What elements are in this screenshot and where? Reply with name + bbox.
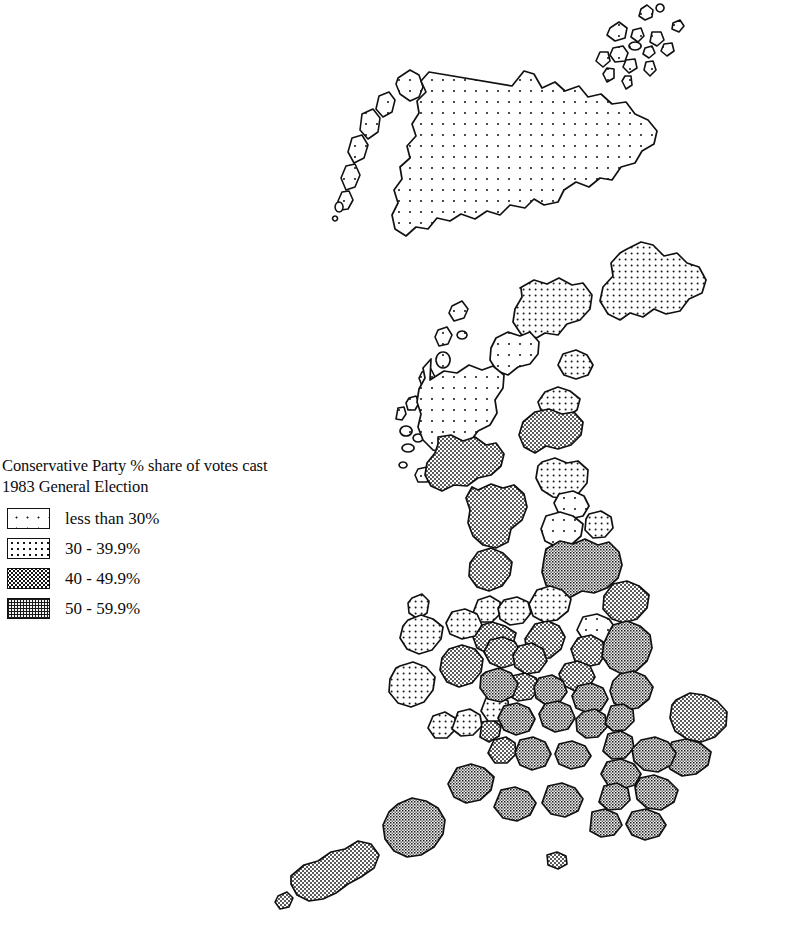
region-buckinghamshire <box>576 709 607 738</box>
region-staffordshire <box>513 643 547 674</box>
region-essex <box>632 737 676 772</box>
map-regions <box>275 4 727 909</box>
region-hereford-worcester <box>480 668 518 702</box>
region-highland <box>392 71 657 236</box>
legend-item-class-3: 40 - 49.9% <box>2 563 302 593</box>
region-clwyd <box>446 609 482 639</box>
legend-swatch-sparse-dots-icon <box>7 508 50 529</box>
legend-item-class-4: 50 - 59.9% <box>2 593 302 623</box>
region-berkshire <box>555 741 591 769</box>
region-cleveland <box>585 511 613 538</box>
legend-item-class-1: less than 30% <box>2 503 302 533</box>
legend-title-line-2: 1983 General Election <box>2 476 302 497</box>
region-somerset <box>448 764 494 803</box>
region-lancashire <box>469 548 512 591</box>
region-cumbria <box>466 484 527 548</box>
region-oxfordshire <box>539 701 575 732</box>
legend-swatch-dense-dots-icon <box>7 568 50 589</box>
region-powys <box>440 645 483 687</box>
region-kent <box>635 775 678 810</box>
legend-label-class-1: less than 30% <box>65 508 159 529</box>
region-shetland-orkney <box>596 4 684 89</box>
region-cornwall <box>291 841 379 901</box>
region-dyfed <box>389 662 435 707</box>
region-mid-glamorgan <box>452 709 482 736</box>
figure-page: Conservative Party % share of votes cast… <box>0 0 805 937</box>
region-isle-of-wight <box>547 852 567 869</box>
region-gloucestershire <box>498 703 535 735</box>
legend-label-class-4: 50 - 59.9% <box>65 598 140 619</box>
region-surrey <box>599 783 630 810</box>
region-fife <box>558 350 593 379</box>
legend-swatch-medium-dots-icon <box>7 538 50 559</box>
map-legend: Conservative Party % share of votes cast… <box>2 455 302 623</box>
region-west-glamorgan <box>428 712 456 738</box>
region-cambridgeshire <box>610 671 653 710</box>
region-grampian <box>600 242 706 320</box>
region-wiltshire <box>515 737 551 770</box>
legend-items: less than 30% 30 - 39.9% 40 - 49.9% 50 -… <box>2 503 302 623</box>
legend-swatch-crosshatch-icon <box>7 598 50 619</box>
region-northamptonshire <box>572 683 608 713</box>
region-tayside <box>513 278 592 340</box>
region-greater-manchester <box>498 597 531 625</box>
legend-item-class-2: 30 - 39.9% <box>2 533 302 563</box>
region-hampshire <box>542 783 583 817</box>
region-humberside <box>603 581 649 623</box>
legend-label-class-2: 30 - 39.9% <box>65 538 140 559</box>
region-borders <box>519 409 583 453</box>
region-norfolk <box>670 693 727 742</box>
legend-title-line-1: Conservative Party % share of votes cast <box>2 455 302 476</box>
legend-label-class-3: 40 - 49.9% <box>65 568 140 589</box>
region-devon <box>383 798 445 857</box>
region-dorset <box>494 787 536 821</box>
region-bedfordshire <box>605 704 634 731</box>
region-west-sussex <box>590 809 622 837</box>
region-hertfordshire <box>603 731 634 759</box>
region-gwynedd <box>400 615 443 654</box>
region-east-sussex <box>626 809 666 840</box>
